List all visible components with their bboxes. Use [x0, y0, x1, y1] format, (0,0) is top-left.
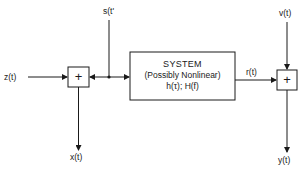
- label-r: r(t): [246, 67, 257, 77]
- plus-icon: +: [283, 72, 291, 87]
- system-functions: h(τ); H(f): [166, 81, 199, 91]
- label-z: z(t): [4, 72, 16, 82]
- label-v: v(t): [279, 8, 291, 18]
- block-diagram: z(t) + s(t' SYSTEM (Possibly Nonlinear) …: [0, 0, 304, 172]
- system-box: SYSTEM (Possibly Nonlinear) h(τ); H(f): [130, 52, 235, 100]
- system-title: SYSTEM: [163, 59, 202, 69]
- summer-right: +: [277, 70, 297, 90]
- system-subtitle: (Possibly Nonlinear): [144, 70, 220, 80]
- summer-left: +: [68, 67, 89, 87]
- plus-icon: +: [75, 69, 83, 84]
- label-s: s(t': [103, 6, 114, 16]
- label-y: y(t): [278, 155, 290, 165]
- label-x: x(t): [70, 152, 82, 162]
